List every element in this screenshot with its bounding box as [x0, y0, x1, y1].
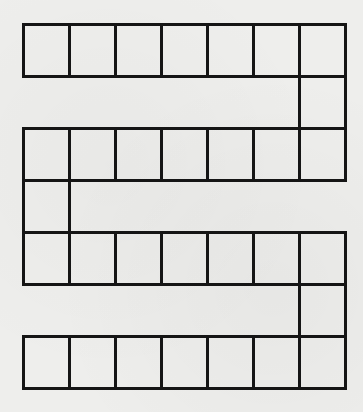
board-cell [114, 335, 163, 390]
board-cell [22, 335, 71, 390]
board-cell [252, 231, 301, 286]
connector-cell [298, 283, 347, 338]
board-cell [114, 231, 163, 286]
board-cell [68, 335, 117, 390]
board-cell [298, 231, 347, 286]
board-cell [298, 23, 347, 78]
board-cell [206, 335, 255, 390]
board-cell [252, 23, 301, 78]
board-cell [160, 127, 209, 182]
board-cell [160, 231, 209, 286]
board-cell [206, 231, 255, 286]
board-cell [68, 127, 117, 182]
board-cell [298, 335, 347, 390]
board-cell [22, 231, 71, 286]
board-cell [160, 23, 209, 78]
board-cell [298, 127, 347, 182]
serpentine-board [0, 0, 363, 412]
board-cell [252, 335, 301, 390]
board-cell [252, 127, 301, 182]
board-cell [68, 23, 117, 78]
board-cell [114, 23, 163, 78]
board-cell [206, 23, 255, 78]
connector-cell [298, 75, 347, 130]
board-cell [206, 127, 255, 182]
board-cell [22, 127, 71, 182]
board-cell [68, 231, 117, 286]
board-cell [160, 335, 209, 390]
connector-cell [22, 179, 71, 234]
board-cell [114, 127, 163, 182]
board-cell [22, 23, 71, 78]
